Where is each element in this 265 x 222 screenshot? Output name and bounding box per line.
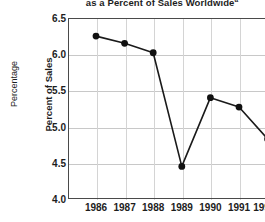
data-point-marker: [93, 33, 100, 40]
series-line: [96, 36, 265, 166]
data-point-marker: [207, 94, 214, 101]
data-series-layer: [0, 0, 265, 222]
data-point-marker: [150, 49, 157, 56]
data-point-marker: [121, 40, 128, 47]
x-tick-label: 1992E: [251, 202, 265, 213]
data-point-marker: [236, 104, 243, 111]
series-markers: [93, 33, 265, 170]
data-point-marker: [178, 163, 185, 170]
chart-figure: as a Percent of Sales Worldwidea Percent…: [0, 0, 265, 222]
